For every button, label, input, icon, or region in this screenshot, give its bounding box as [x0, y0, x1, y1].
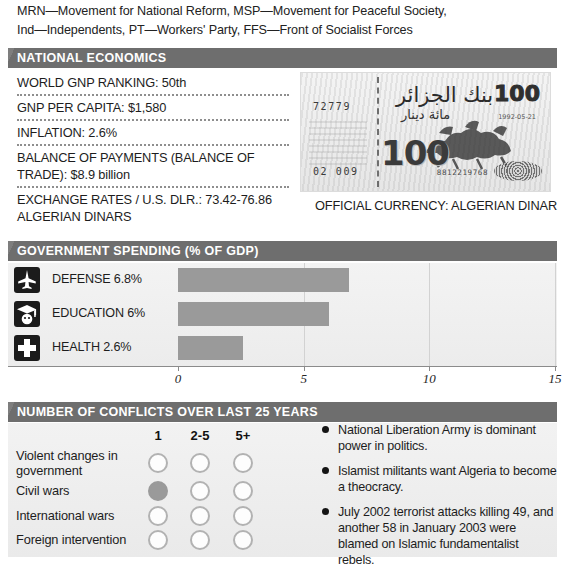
conflict-column-header: 2-5 — [191, 428, 210, 443]
economics-stat-list: WORLD GNP RANKING: 50th GNP PER CAPITA: … — [17, 74, 289, 231]
conflict-row-label: Foreign intervention — [16, 532, 146, 547]
algerian-100-dinar-banknote-image: 72779 02 009 8812219768 بنك الجزائر مائة… — [300, 72, 551, 192]
chart-tick-label: 0 — [175, 371, 182, 387]
conflict-row-label: Violent changes in government — [16, 448, 146, 478]
stat-inflation: INFLATION: 2.6% — [17, 124, 289, 146]
banknote-denomination-bottom-left: 100 — [381, 133, 449, 173]
government-spending-header-band: GOVERNMENT SPENDING (% OF GDP) — [8, 241, 557, 261]
chart-tick-label: 15 — [549, 371, 562, 387]
conflict-note-item: July 2002 terrorist attacks killing 49, … — [322, 504, 558, 568]
conflict-marker-empty[interactable] — [233, 481, 253, 501]
conflict-marker-empty[interactable] — [233, 506, 253, 526]
stat-gnp-per-capita: GNP PER CAPITA: $1,580 — [17, 99, 289, 121]
spending-bar-row: DEFENSE 6.8% — [8, 264, 557, 296]
bullet-dot-icon — [322, 467, 329, 474]
graduation-cap-icon — [14, 301, 40, 327]
spending-bar — [178, 268, 349, 292]
bullet-dot-icon — [322, 508, 329, 515]
chart-x-axis — [8, 366, 557, 367]
spending-bar — [178, 302, 329, 326]
medical-cross-icon — [14, 335, 40, 361]
legend-line-2: Ind—Independents, PT—Workers' Party, FFS… — [17, 21, 557, 40]
spending-bar-row: HEALTH 2.6% — [8, 332, 557, 364]
government-spending-title: GOVERNMENT SPENDING (% OF GDP) — [17, 244, 259, 258]
government-spending-section: GOVERNMENT SPENDING (% OF GDP) DEFENSE 6… — [0, 241, 563, 393]
banknote-serial-bottom-left: 02 009 — [313, 166, 359, 177]
stat-world-gnp-ranking: WORLD GNP RANKING: 50th — [17, 74, 289, 96]
conflict-marker-empty[interactable] — [233, 453, 253, 473]
conflict-column-header: 1 — [154, 428, 161, 443]
conflict-column-header: 5+ — [236, 428, 251, 443]
conflict-marker-empty[interactable] — [148, 506, 168, 526]
conflict-marker-filled[interactable] — [148, 481, 168, 501]
conflicts-header-band: NUMBER OF CONFLICTS OVER LAST 25 YEARS — [8, 402, 557, 422]
fighter-jet-icon — [14, 267, 40, 293]
government-spending-chart: DEFENSE 6.8%EDUCATION 6%HEALTH 2.6% — [8, 263, 557, 366]
banknote-figure: 72779 02 009 8812219768 بنك الجزائر مائة… — [300, 72, 550, 192]
chart-tick-label: 10 — [423, 371, 436, 387]
legend-line-1: MRN—Movement for National Reform, MSP—Mo… — [17, 2, 557, 21]
national-economics-section: NATIONAL ECONOMICS WORLD GNP RANKING: 50… — [0, 48, 563, 234]
party-abbreviation-legend: MRN—Movement for National Reform, MSP—Mo… — [17, 2, 557, 40]
stat-balance-of-payments: BALANCE OF PAYMENTS (BALANCE OF TRADE): … — [17, 149, 289, 188]
banknote-watermark — [309, 121, 367, 165]
spending-bar-label: DEFENSE 6.8% — [52, 272, 142, 286]
conflicts-notes-list: National Liberation Army is dominant pow… — [322, 422, 558, 568]
official-currency-caption: OFFICIAL CURRENCY: ALGERIAN DINAR — [300, 198, 557, 213]
conflict-marker-empty[interactable] — [190, 481, 210, 501]
conflicts-title: NUMBER OF CONFLICTS OVER LAST 25 YEARS — [17, 405, 318, 419]
banknote-serial-top-left: 72779 — [313, 101, 351, 112]
bullet-dot-icon — [322, 426, 329, 433]
conflict-marker-empty[interactable] — [190, 506, 210, 526]
conflict-marker-empty[interactable] — [190, 530, 210, 550]
conflict-marker-empty[interactable] — [148, 453, 168, 473]
banknote-divider-line — [377, 77, 379, 187]
national-economics-header-band: NATIONAL ECONOMICS — [8, 48, 557, 68]
conflict-marker-empty[interactable] — [233, 530, 253, 550]
conflict-note-item: National Liberation Army is dominant pow… — [322, 422, 558, 454]
conflict-note-item: Islamist militants want Algeria to becom… — [322, 463, 558, 495]
banknote-arabic-bank-name: بنك الجزائر — [396, 83, 493, 107]
conflict-marker-empty[interactable] — [190, 453, 210, 473]
banknote-denomination-top-right: 100 — [494, 81, 540, 106]
conflict-row-label: Civil wars — [16, 483, 146, 498]
conflict-note-text: National Liberation Army is dominant pow… — [338, 423, 536, 453]
conflict-marker-empty[interactable] — [148, 530, 168, 550]
spending-bar-label: HEALTH 2.6% — [52, 340, 131, 354]
spending-bar — [178, 336, 243, 360]
conflict-note-text: Islamist militants want Algeria to becom… — [338, 464, 557, 494]
banknote-seal — [494, 161, 542, 181]
conflict-note-text: July 2002 terrorist attacks killing 49, … — [338, 505, 553, 567]
conflict-row-label: International wars — [16, 508, 146, 523]
conflicts-section: NUMBER OF CONFLICTS OVER LAST 25 YEARS 1… — [0, 402, 563, 557]
chart-tick-label: 5 — [300, 371, 307, 387]
national-economics-title: NATIONAL ECONOMICS — [17, 51, 166, 65]
spending-bar-label: EDUCATION 6% — [52, 306, 145, 320]
stat-exchange-rates: EXCHANGE RATES / U.S. DLR.: 73.42-76.86 … — [17, 191, 289, 228]
spending-bar-row: EDUCATION 6% — [8, 298, 557, 330]
